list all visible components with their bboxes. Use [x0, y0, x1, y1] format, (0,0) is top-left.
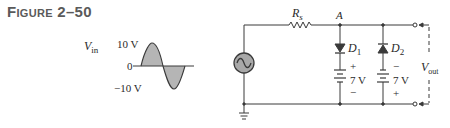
- ac-source-icon: [234, 53, 254, 73]
- resistor-rs: [289, 22, 311, 28]
- d1-bottom-dot: [339, 103, 342, 106]
- diode-d2-icon: [378, 44, 388, 53]
- diode-d1-icon: [335, 44, 345, 53]
- output-terminal-top: [413, 23, 417, 27]
- circuit: [234, 22, 429, 119]
- battery1-top-polarity: +: [350, 60, 356, 72]
- figure-diagram: Vin 10 V 0 −10 V: [0, 0, 450, 128]
- battery-2-icon: [377, 70, 389, 82]
- ground-icon: [239, 103, 249, 119]
- battery-1-icon: [334, 70, 346, 82]
- node-a-label: A: [335, 9, 343, 21]
- d1-label: D1: [347, 41, 361, 57]
- battery2-voltage: 7 V: [393, 74, 409, 86]
- d2-bottom-dot: [382, 103, 385, 106]
- vout-label: Vout: [421, 60, 439, 76]
- min-voltage-label: −10 V: [114, 82, 142, 94]
- output-arrow-bottom-icon: [419, 102, 429, 106]
- battery1-voltage: 7 V: [350, 74, 366, 86]
- vin-label: Vin: [84, 39, 99, 55]
- battery2-top-polarity: −: [393, 60, 399, 72]
- d2-label: D2: [390, 41, 404, 57]
- battery1-bottom-polarity: −: [350, 86, 356, 98]
- input-waveform: Vin 10 V 0 −10 V: [84, 38, 194, 94]
- resistor-label: Rs: [291, 6, 303, 22]
- max-voltage-label: 10 V: [117, 38, 139, 50]
- battery2-bottom-polarity: +: [393, 87, 399, 99]
- output-terminal-bottom: [413, 102, 417, 106]
- output-arrow-top-icon: [419, 23, 429, 27]
- zero-label: 0: [127, 60, 133, 72]
